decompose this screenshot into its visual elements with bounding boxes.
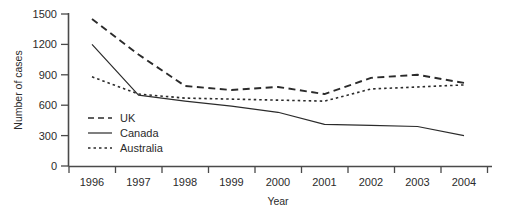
chart-legend: UK Canada Australia xyxy=(88,112,164,154)
y-tick-label-300: 300 xyxy=(39,130,57,142)
y-axis-title: Number of cases xyxy=(12,50,24,129)
legend-item-uk[interactable]: UK xyxy=(88,112,136,124)
x-tick-label-2000: 2000 xyxy=(266,176,290,188)
x-tick-label-2001: 2001 xyxy=(312,176,336,188)
legend-item-canada[interactable]: Canada xyxy=(88,127,159,139)
x-axis-tick-labels: 1996 1997 1998 1999 2000 2001 2002 2003 … xyxy=(80,176,476,188)
legend-label-australia: Australia xyxy=(120,142,164,154)
y-axis-ticks xyxy=(61,14,69,166)
y-tick-label-900: 900 xyxy=(39,69,57,81)
line-chart-canvas: 1500 1200 900 600 300 0 Number of cases … xyxy=(0,0,508,216)
x-tick-label-1997: 1997 xyxy=(126,176,150,188)
y-tick-label-600: 600 xyxy=(39,99,57,111)
x-tick-label-2003: 2003 xyxy=(405,176,429,188)
legend-label-uk: UK xyxy=(120,112,136,124)
chart-figure: 1500 1200 900 600 300 0 Number of cases … xyxy=(0,0,508,216)
legend-label-canada: Canada xyxy=(120,127,159,139)
x-tick-label-1998: 1998 xyxy=(173,176,197,188)
series-line-australia xyxy=(92,77,464,101)
y-axis-tick-labels: 1500 1200 900 600 300 0 xyxy=(33,8,57,172)
x-tick-label-2002: 2002 xyxy=(359,176,383,188)
x-tick-label-1996: 1996 xyxy=(80,176,104,188)
series-line-canada xyxy=(92,44,464,135)
x-tick-label-1999: 1999 xyxy=(219,176,243,188)
y-tick-label-1500: 1500 xyxy=(33,8,57,20)
y-tick-label-0: 0 xyxy=(51,160,57,172)
series-group xyxy=(92,19,464,136)
x-axis-title: Year xyxy=(267,195,289,207)
legend-item-australia[interactable]: Australia xyxy=(88,142,164,154)
x-axis-ticks xyxy=(69,167,488,174)
series-line-uk xyxy=(92,19,464,94)
x-tick-label-2004: 2004 xyxy=(452,176,476,188)
y-tick-label-1200: 1200 xyxy=(33,38,57,50)
